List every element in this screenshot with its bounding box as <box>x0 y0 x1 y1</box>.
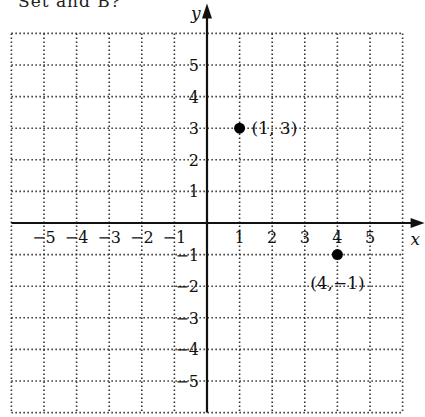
y-tick-label: −5 <box>175 372 199 391</box>
y-tick-label: 4 <box>189 88 199 107</box>
y-tick-label: 3 <box>189 119 199 138</box>
y-tick-label: 2 <box>189 151 199 170</box>
x-tick-label: 4 <box>332 228 342 247</box>
y-tick-label: −4 <box>175 340 199 359</box>
x-tick-label: −3 <box>97 228 121 247</box>
x-tick-label: 1 <box>235 228 245 247</box>
x-tick-label: 3 <box>300 228 310 247</box>
data-points: (1, 3)(4,−1) <box>234 118 365 292</box>
data-point-label: (4,−1) <box>310 273 365 293</box>
y-tick-label: 5 <box>189 56 199 75</box>
coordinate-plane: xy −5−4−3−2−11234554321−1−2−3−4−5 (1, 3)… <box>0 0 425 417</box>
y-axis-arrow-icon <box>202 3 212 18</box>
y-axis-label: y <box>190 3 201 23</box>
data-point <box>234 123 245 134</box>
x-tick-label: −2 <box>130 228 154 247</box>
data-point-label: (1, 3) <box>252 118 298 138</box>
axes: xy <box>11 3 424 412</box>
x-axis-label: x <box>411 229 421 249</box>
y-tick-label: −2 <box>175 277 199 296</box>
x-tick-label: −1 <box>163 228 187 247</box>
x-tick-label: −5 <box>32 228 56 247</box>
data-point <box>332 249 343 260</box>
x-tick-label: 5 <box>365 228 375 247</box>
y-tick-label: −3 <box>175 309 199 328</box>
y-tick-label: −1 <box>175 246 199 265</box>
y-tick-label: 1 <box>189 182 199 201</box>
x-tick-label: 2 <box>267 228 277 247</box>
x-axis-arrow-icon <box>411 218 425 228</box>
x-tick-label: −4 <box>65 228 89 247</box>
